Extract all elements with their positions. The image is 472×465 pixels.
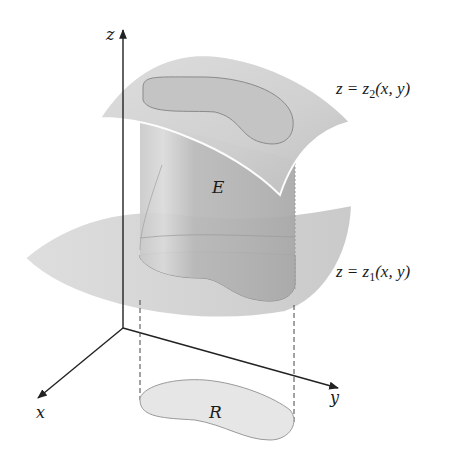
solid-label-e: E — [211, 177, 225, 197]
upper-eq-rhs: (x, y) — [375, 79, 410, 98]
base-label-r: R — [208, 402, 222, 422]
lower-eq-lhs: z = z — [335, 262, 370, 281]
triple-integral-region-diagram: z x y E R z = z2(x, y) z = z1(x, y) — [0, 0, 472, 465]
lower-eq-rhs: (x, y) — [375, 262, 410, 281]
y-axis-label: y — [329, 388, 340, 407]
lower-surface-equation: z = z1(x, y) — [335, 262, 410, 284]
y-axis — [123, 328, 338, 388]
x-axis — [38, 328, 123, 398]
upper-eq-lhs: z = z — [335, 79, 370, 98]
upper-surface-equation: z = z2(x, y) — [335, 79, 410, 101]
z-axis-label: z — [105, 25, 115, 44]
x-axis-label: x — [36, 403, 45, 422]
